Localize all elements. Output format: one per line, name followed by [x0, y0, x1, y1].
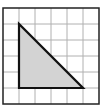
- grid-triangle-diagram: [0, 0, 103, 106]
